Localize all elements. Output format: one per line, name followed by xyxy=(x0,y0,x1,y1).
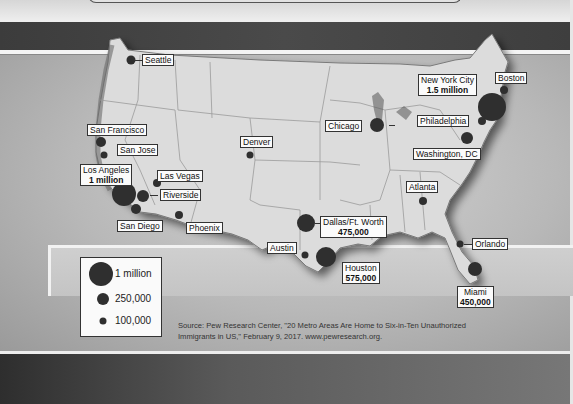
city-label-austin: Austin xyxy=(267,242,297,254)
city-label-houston: Houston575,000 xyxy=(342,262,380,284)
city-dot-san-francisco[interactable] xyxy=(96,137,106,147)
city-dot-denver[interactable] xyxy=(247,152,254,159)
city-dot-austin[interactable] xyxy=(302,252,309,259)
leader-line xyxy=(134,60,142,61)
city-label-riverside: Riverside xyxy=(160,189,201,201)
city-dot-chicago[interactable] xyxy=(370,118,384,132)
legend-dot-medium xyxy=(97,293,109,305)
legend-label: 100,000 xyxy=(115,315,151,326)
city-label-miami: Miami450,000 xyxy=(457,286,494,308)
legend-item-1-million: 1 million xyxy=(81,264,161,284)
city-label-las-vegas: Las Vegas xyxy=(157,170,203,182)
legend-item-100000: 100,000 xyxy=(81,311,161,331)
city-dot-orlando[interactable] xyxy=(457,241,464,248)
city-label-denver: Denver xyxy=(240,136,273,148)
city-dot-phoenix[interactable] xyxy=(175,211,183,219)
legend-dot-large xyxy=(89,262,113,286)
city-label-boston: Boston xyxy=(495,72,527,84)
city-dot-san-jose[interactable] xyxy=(101,152,108,159)
city-dot-riverside[interactable] xyxy=(137,190,149,202)
city-label-chicago: Chicago xyxy=(325,120,362,132)
legend-label: 250,000 xyxy=(115,293,151,304)
city-label-atlanta: Atlanta xyxy=(406,181,438,193)
city-dot-washington-dc[interactable] xyxy=(461,132,473,144)
legend-dot-small xyxy=(100,318,107,325)
city-dot-houston[interactable] xyxy=(316,247,336,267)
city-dot-boston[interactable] xyxy=(500,86,508,94)
city-dot-philadelphia[interactable] xyxy=(478,117,486,125)
city-label-orlando: Orlando xyxy=(472,238,508,250)
legend-item-250000: 250,000 xyxy=(81,289,161,309)
leader-line xyxy=(464,244,472,245)
city-label-san-jose: San Jose xyxy=(117,144,158,156)
city-label-san-francisco: San Francisco xyxy=(87,124,147,136)
leader-line xyxy=(150,195,158,196)
leader-line xyxy=(389,125,395,126)
city-dot-san-diego[interactable] xyxy=(131,204,141,214)
city-dot-atlanta[interactable] xyxy=(419,197,427,205)
source-line-1: Source: Pew Research Center, "20 Metro A… xyxy=(178,320,558,331)
legend-label: 1 million xyxy=(115,268,152,279)
city-label-san-diego: San Diego xyxy=(117,220,163,232)
city-label-dallas: Dallas/Ft. Worth475,000 xyxy=(320,216,387,238)
city-label-washington-dc: Washington, DC xyxy=(413,148,481,160)
city-dot-dallas[interactable] xyxy=(297,214,315,232)
source-line-2: Immigrants in US," February 9, 2017. www… xyxy=(178,331,558,342)
city-label-seattle: Seattle xyxy=(142,54,174,66)
city-label-philadelphia: Philadelphia xyxy=(417,115,469,127)
city-label-new-york-city: New York City1.5 million xyxy=(418,74,477,96)
city-label-phoenix: Phoenix xyxy=(186,222,223,234)
city-dot-miami[interactable] xyxy=(468,262,482,276)
city-label-los-angeles: Los Angeles1 million xyxy=(80,164,132,186)
source-citation: Source: Pew Research Center, "20 Metro A… xyxy=(178,320,558,342)
legend: 1 million 250,000 100,000 xyxy=(80,257,162,337)
